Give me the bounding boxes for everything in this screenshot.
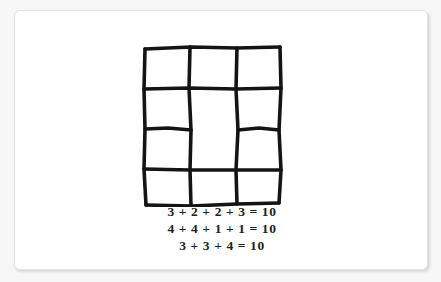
equation-row-3: 3 + 3 + 4 = 10 (15, 237, 428, 254)
math-figure: 3 + 2 + 2 + 3 = 10 4 + 4 + 1 + 1 = 10 3 … (15, 11, 428, 270)
grid-right-edge (279, 47, 281, 203)
grid-vertical-divider-left (189, 47, 191, 206)
grid-horizontal-divider-row3 (144, 169, 281, 170)
grid-svg (139, 31, 287, 207)
grid-strokes (144, 47, 281, 206)
equation-row-2: 4 + 4 + 1 + 1 = 10 (15, 220, 428, 237)
grid-vertical-divider-right (236, 48, 238, 204)
hand-drawn-grid-diagram (139, 31, 287, 207)
grid-horizontal-divider-row2-right (238, 128, 279, 130)
grid-horizontal-divider-row1 (144, 88, 281, 89)
content-card: 3 + 2 + 2 + 3 = 10 4 + 4 + 1 + 1 = 10 3 … (14, 10, 428, 270)
equation-list: 3 + 2 + 2 + 3 = 10 4 + 4 + 1 + 1 = 10 3 … (15, 203, 428, 254)
grid-top-edge (145, 47, 280, 49)
grid-horizontal-divider-row2-left (145, 128, 191, 130)
equation-row-1: 3 + 2 + 2 + 3 = 10 (15, 203, 428, 220)
grid-left-edge (144, 49, 146, 205)
